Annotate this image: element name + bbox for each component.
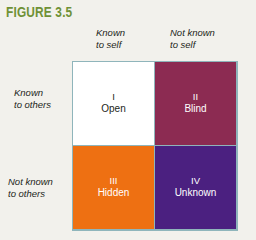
column-header-known-to-self-line2: to self <box>96 39 125 51</box>
row-header-not-known-to-others-line2: to others <box>8 188 53 200</box>
quadrant-open-name: Open <box>101 103 125 116</box>
quadrant-hidden-name: Hidden <box>98 187 130 200</box>
row-header-not-known-to-others: Not known to others <box>8 176 53 199</box>
row-header-known-to-others: Known to others <box>14 87 51 110</box>
column-header-not-known-to-self-line2: to self <box>170 39 215 51</box>
quadrant-unknown: IV Unknown <box>154 145 237 230</box>
column-header-not-known-to-self: Not known to self <box>170 27 215 50</box>
row-header-known-to-others-line2: to others <box>14 99 51 111</box>
quadrant-open: I Open <box>72 61 155 146</box>
column-header-known-to-self: Known to self <box>96 27 125 50</box>
quadrant-unknown-numeral: IV <box>191 175 200 187</box>
quadrant-blind-numeral: II <box>193 91 198 103</box>
quadrant-unknown-name: Unknown <box>175 187 217 200</box>
quadrant-blind-name: Blind <box>184 103 206 116</box>
quadrant-hidden-numeral: III <box>110 175 118 187</box>
johari-window-figure: FIGURE 3.5 Known to self Not known to se… <box>0 0 256 240</box>
row-header-not-known-to-others-line1: Not known <box>8 176 53 188</box>
quadrant-hidden: III Hidden <box>72 145 155 230</box>
johari-matrix: I Open II Blind III Hidden IV Unknown <box>72 61 238 231</box>
quadrant-blind: II Blind <box>154 61 237 146</box>
column-header-known-to-self-line1: Known <box>96 27 125 39</box>
column-header-not-known-to-self-line1: Not known <box>170 27 215 39</box>
figure-title: FIGURE 3.5 <box>6 4 72 20</box>
quadrant-open-numeral: I <box>112 91 115 103</box>
row-header-known-to-others-line1: Known <box>14 87 51 99</box>
